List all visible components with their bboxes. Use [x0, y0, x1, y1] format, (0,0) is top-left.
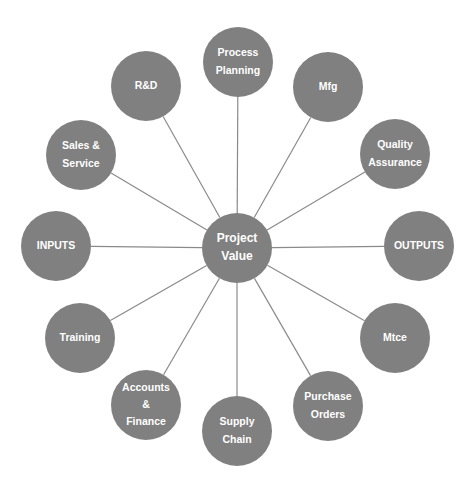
spoke-inputs [91, 246, 202, 247]
node-label-line: Orders [311, 408, 346, 420]
spoke-process-planning [237, 97, 238, 213]
hub-node: ProjectValue [202, 213, 272, 283]
spoke-outputs [272, 246, 384, 247]
node-circle [360, 119, 430, 189]
node-label-line: Project [217, 231, 258, 245]
node-accounts-finance: Accounts&Finance [111, 370, 181, 440]
spoke-quality-assurance [267, 172, 365, 230]
node-label-line: Value [221, 249, 253, 263]
node-mfg: Mfg [293, 52, 363, 122]
node-label-line: Chain [222, 433, 251, 445]
node-label-line: Process [218, 46, 259, 58]
spoke-training [110, 265, 206, 320]
node-rd: R&D [111, 51, 181, 121]
node-label-line: Service [62, 157, 100, 169]
node-label-line: Mtce [383, 331, 407, 343]
node-label-line: R&D [135, 79, 158, 91]
node-label-line: Sales & [62, 139, 100, 151]
node-label-line: Purchase [304, 390, 351, 402]
node-label-line: & [142, 398, 150, 410]
node-label-line: Planning [216, 64, 260, 76]
spoke-mtce [267, 265, 364, 320]
node-inputs: INPUTS [21, 211, 91, 281]
node-label-line: Training [60, 331, 101, 343]
node-label-line: Assurance [368, 156, 422, 168]
node-circle [202, 396, 272, 466]
node-label-line: Finance [126, 415, 166, 427]
spoke-accounts-finance [164, 278, 220, 374]
hub-spoke-diagram: ProcessPlanningMfgQualityAssuranceOUTPUT… [0, 0, 475, 486]
node-label-line: OUTPUTS [394, 239, 444, 251]
node-label-line: Quality [377, 138, 413, 150]
node-training: Training [45, 303, 115, 373]
node-label-line: Supply [219, 415, 254, 427]
node-circle [293, 371, 363, 441]
node-label-line: Mfg [319, 80, 338, 92]
node-circle [46, 120, 116, 190]
spoke-rd [163, 117, 220, 218]
node-quality-assurance: QualityAssurance [360, 119, 430, 189]
node-supply-chain: SupplyChain [202, 396, 272, 466]
spoke-mfg [254, 117, 311, 217]
node-process-planning: ProcessPlanning [203, 27, 273, 97]
hub-circle [202, 213, 272, 283]
spoke-purchase-orders [254, 278, 310, 375]
node-circle [203, 27, 273, 97]
node-label-line: Accounts [122, 381, 170, 393]
node-purchase-orders: PurchaseOrders [293, 371, 363, 441]
node-sales-service: Sales &Service [46, 120, 116, 190]
node-label-line: INPUTS [37, 239, 76, 251]
node-mtce: Mtce [360, 303, 430, 373]
node-outputs: OUTPUTS [384, 211, 454, 281]
spoke-sales-service [111, 173, 207, 230]
